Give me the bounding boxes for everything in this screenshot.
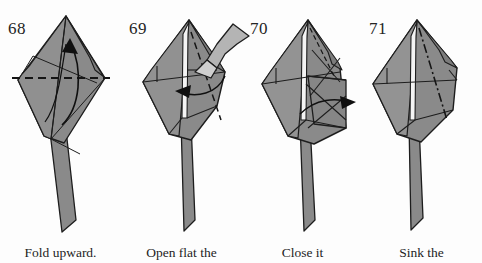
opened-right-flap [308, 76, 346, 128]
step-caption: Fold upward. [0, 246, 121, 260]
origami-figure-71 [361, 10, 482, 235]
fold-arrow-head [340, 96, 356, 109]
step-caption: Open flat the [121, 246, 242, 260]
step-panel-71: 71 [361, 0, 482, 263]
origami-figure-70 [242, 10, 363, 235]
step-panel-69: 69 [121, 0, 242, 263]
step-panel-70: 70 [242, 0, 363, 263]
instruction-sheet: 68 [0, 0, 482, 263]
step-caption: Close it [242, 246, 363, 260]
step-caption: Sink the [361, 246, 482, 260]
step-panel-68: 68 [0, 0, 121, 263]
origami-figure-69 [121, 10, 242, 235]
origami-figure-68 [0, 10, 121, 235]
